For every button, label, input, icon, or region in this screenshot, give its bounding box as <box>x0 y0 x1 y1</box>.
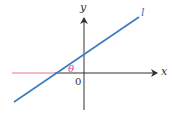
coordinate-diagram <box>0 0 175 118</box>
y-axis-label: y <box>80 1 86 14</box>
origin-label: 0 <box>75 76 81 87</box>
angle-theta-label: θ <box>68 63 74 74</box>
line-l <box>14 17 139 102</box>
line-label: l <box>141 6 145 19</box>
x-axis-label: x <box>161 65 167 78</box>
